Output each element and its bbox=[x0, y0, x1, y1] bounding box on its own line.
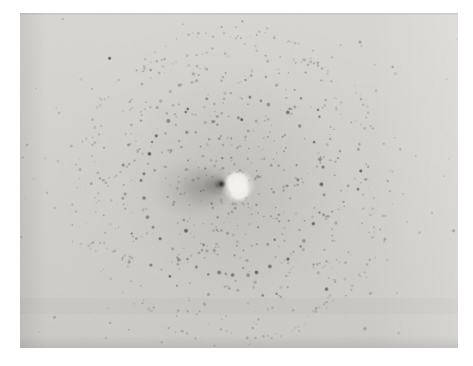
diffraction-photo-canvas bbox=[0, 0, 473, 366]
page bbox=[0, 0, 473, 366]
diffraction-photograph bbox=[0, 0, 473, 366]
